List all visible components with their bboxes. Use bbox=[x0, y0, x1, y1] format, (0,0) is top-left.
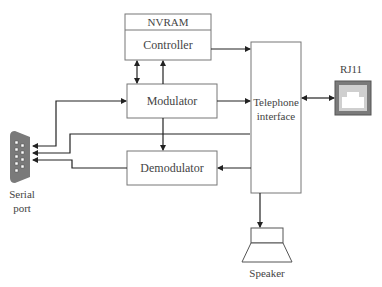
demodulator-block: Demodulator bbox=[127, 151, 217, 185]
telephone-interface-block: Telephone interface bbox=[251, 42, 301, 193]
serial-label-line2: port bbox=[13, 202, 31, 214]
serial-port-connector: Serial port bbox=[9, 131, 35, 214]
modulator-block: Modulator bbox=[127, 84, 217, 118]
rj11-label: RJ11 bbox=[340, 63, 362, 75]
controller-block: NVRAM Controller bbox=[125, 14, 211, 60]
demodulator-label: Demodulator bbox=[140, 161, 203, 175]
telephone-label-line2: interface bbox=[257, 110, 296, 122]
modem-block-diagram: NVRAM Controller Modulator Demodulator T… bbox=[0, 0, 382, 287]
rj11-connector: RJ11 bbox=[335, 63, 371, 115]
speaker-icon: Speaker bbox=[242, 228, 292, 279]
controller-label: Controller bbox=[143, 38, 192, 52]
speaker-label: Speaker bbox=[249, 267, 285, 279]
modulator-label: Modulator bbox=[147, 94, 198, 108]
nvram-label: NVRAM bbox=[148, 16, 189, 28]
telephone-label-line1: Telephone bbox=[253, 96, 299, 108]
serial-label-line1: Serial bbox=[9, 188, 35, 200]
